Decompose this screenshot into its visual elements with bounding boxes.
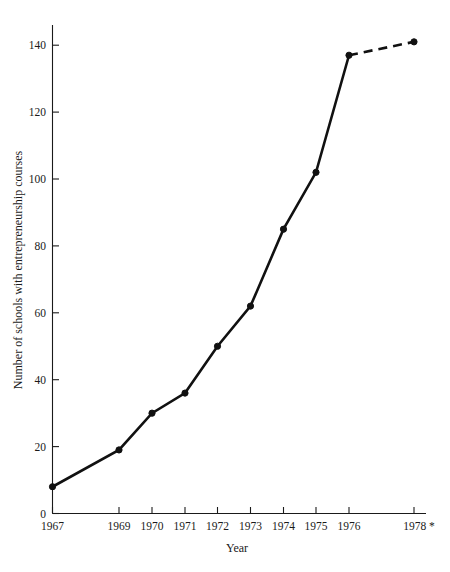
y-tick-label-80: 80 [35, 240, 47, 252]
data-point-1976 [346, 52, 352, 58]
y-tick-label-100: 100 [29, 173, 47, 185]
line-chart: 0 20 40 60 80 100 120 140 1967 1969 19 [0, 0, 450, 572]
x-tick-label-1978: 1978 * [403, 520, 435, 532]
y-axis-tick-labels: 0 20 40 60 80 100 120 140 [29, 39, 47, 519]
data-point-1970 [149, 410, 155, 416]
data-point-1974 [280, 226, 286, 232]
data-point-1975 [313, 169, 319, 175]
data-point-1967 [49, 484, 55, 490]
x-tick-label-1972: 1972 [206, 520, 229, 532]
x-tick-label-1971: 1971 [174, 520, 197, 532]
y-axis-title: Number of schools with entrepreneurship … [11, 151, 25, 390]
data-point-1972 [214, 343, 220, 349]
chart-figure: 0 20 40 60 80 100 120 140 1967 1969 19 [0, 0, 450, 572]
data-line-dashed-projection [349, 42, 414, 55]
data-point-1978 [411, 39, 417, 45]
y-tick-label-0: 0 [40, 508, 46, 520]
x-axis-ticks [53, 507, 415, 514]
x-tick-label-1975: 1975 [305, 520, 328, 532]
y-tick-label-20: 20 [35, 441, 47, 453]
x-tick-label-1969: 1969 [108, 520, 131, 532]
x-tick-label-1973: 1973 [239, 520, 262, 532]
x-axis-tick-labels: 1967 1969 1970 1971 1972 1973 1974 1975 … [41, 520, 435, 532]
data-line-solid [53, 55, 350, 487]
x-tick-label-1976: 1976 [338, 520, 361, 532]
y-tick-label-140: 140 [29, 39, 47, 51]
y-axis-ticks [53, 45, 60, 513]
data-point-markers [49, 39, 417, 490]
data-point-1969 [116, 447, 122, 453]
data-point-1973 [247, 303, 253, 309]
y-tick-label-40: 40 [35, 374, 47, 386]
x-axis-title: Year [226, 541, 248, 555]
x-tick-label-1970: 1970 [141, 520, 164, 532]
data-point-1971 [182, 390, 188, 396]
x-tick-label-1967: 1967 [41, 520, 64, 532]
y-tick-label-60: 60 [35, 307, 47, 319]
x-tick-label-1974: 1974 [272, 520, 295, 532]
y-tick-label-120: 120 [29, 106, 47, 118]
